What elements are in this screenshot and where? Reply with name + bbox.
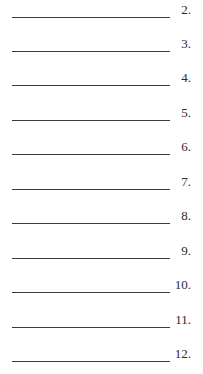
item-number: 12. [175,347,191,360]
answer-blank-line [12,327,170,328]
answer-row-7: 7. [0,172,203,192]
answer-blank-list: 2. 3. 4. 5. 6. 7. 8. 9. 10. 11. 12. [0,0,203,374]
item-number: 7. [181,175,191,188]
answer-row-4: 4. [0,68,203,88]
answer-blank-line [12,85,170,86]
answer-row-10: 10. [0,275,203,295]
item-number: 8. [181,209,191,222]
item-number: 6. [181,140,191,153]
answer-blank-line [12,17,170,18]
item-number: 4. [181,71,191,84]
item-number: 2. [181,3,191,16]
answer-blank-line [12,154,170,155]
answer-row-9: 9. [0,241,203,261]
answer-row-5: 5. [0,103,203,123]
answer-row-6: 6. [0,137,203,157]
answer-blank-line [12,51,170,52]
answer-blank-line [12,292,170,293]
answer-blank-line [12,189,170,190]
answer-row-11: 11. [0,310,203,330]
item-number: 9. [181,244,191,257]
item-number: 10. [175,278,191,291]
answer-row-12: 12. [0,344,203,364]
answer-row-2: 2. [0,0,203,20]
answer-blank-line [12,223,170,224]
answer-blank-line [12,361,170,362]
answer-blank-line [12,258,170,259]
item-number: 5. [181,106,191,119]
answer-blank-line [12,120,170,121]
item-number: 3. [181,37,191,50]
answer-row-8: 8. [0,206,203,226]
answer-row-3: 3. [0,34,203,54]
item-number: 11. [175,313,191,326]
